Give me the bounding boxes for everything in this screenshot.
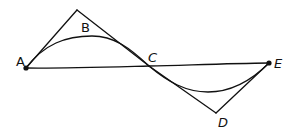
label-E: E [274,56,283,71]
label-B: B [81,20,90,35]
diagram-svg: A B C D E [0,0,298,135]
arc-CE [149,63,269,92]
label-D: D [218,115,228,130]
point-E-dot [266,60,271,65]
segment-CD [149,66,216,113]
diagram-canvas: A B C D E [0,0,298,135]
label-C: C [148,50,158,65]
label-A: A [16,54,25,69]
segment-BC [77,10,149,66]
